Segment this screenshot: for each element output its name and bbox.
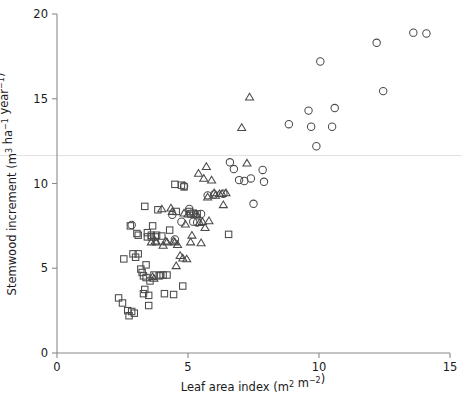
data-point-triangle-43 [246,93,254,100]
chart-canvas: 05101520051015 Leaf area index (m2 m−2) … [0,0,462,403]
x-tick-label-3: 15 [443,360,458,374]
data-point-circle-16 [247,175,254,182]
data-point-square-39 [166,227,172,233]
y-tick-label-4: 20 [33,7,48,21]
data-point-circle-30 [423,30,430,37]
data-point-square-22 [144,234,150,240]
data-point-square-21 [144,229,150,235]
scatter-plot-figure: 05101520051015 Leaf area index (m2 m−2) … [0,0,462,403]
series-circles [128,29,430,243]
data-point-circle-21 [305,107,312,114]
y-tick-label-0: 0 [41,346,48,360]
x-tick-label-0: 0 [53,360,60,374]
axis-tick-labels: 05101520051015 [33,7,457,374]
data-point-square-50 [225,231,231,237]
data-point-circle-18 [259,166,266,173]
data-markers [115,29,430,319]
series-squares [115,181,231,319]
data-point-circle-28 [379,87,386,94]
data-point-circle-29 [410,29,417,36]
data-point-square-17 [142,203,148,209]
data-point-square-41 [172,181,178,187]
data-point-circle-24 [317,58,324,65]
data-point-triangle-27 [197,239,205,246]
series-triangles [147,93,253,281]
data-point-circle-22 [307,123,314,130]
data-point-triangle-41 [238,124,246,131]
data-point-circle-14 [235,176,242,183]
data-point-triangle-39 [219,201,227,208]
y-tick-label-2: 10 [33,177,48,191]
data-point-circle-19 [260,178,267,185]
data-point-square-40 [170,291,176,297]
data-point-triangle-31 [202,163,210,170]
data-point-triangle-42 [243,159,251,166]
data-point-circle-27 [373,39,380,46]
data-point-square-38 [164,272,170,278]
data-point-circle-17 [250,200,257,207]
y-axis-title: Stemwood increment (m3 ha−1 year−1) [0,73,19,296]
data-point-circle-23 [313,143,320,150]
data-point-triangle-34 [208,176,216,183]
data-point-circle-12 [226,159,233,166]
data-point-circle-20 [285,120,292,127]
data-point-triangle-25 [194,170,202,177]
data-point-triangle-29 [200,175,208,182]
data-point-triangle-33 [205,217,213,224]
data-point-square-2 [121,256,127,262]
data-point-triangle-22 [188,231,196,238]
x-tick-label-1: 5 [184,360,191,374]
plot-axes [52,14,450,358]
data-point-square-24 [146,302,152,308]
y-tick-label-3: 15 [33,92,48,106]
data-point-square-44 [180,283,186,289]
x-axis-title: Leaf area index (m2 m−2) [181,372,325,394]
data-point-circle-26 [331,104,338,111]
data-point-square-28 [149,223,155,229]
data-point-triangle-13 [172,262,180,269]
data-point-square-37 [161,290,167,296]
data-point-circle-13 [230,165,237,172]
y-tick-label-1: 5 [41,261,48,275]
data-point-triangle-21 [187,238,195,245]
data-point-circle-25 [328,123,335,130]
